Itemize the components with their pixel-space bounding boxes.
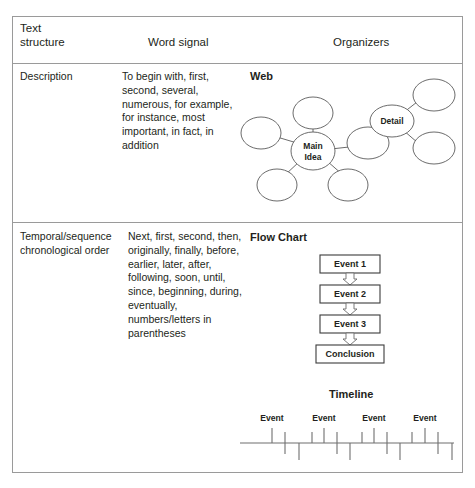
row-structure-temporal: Temporal/sequence chronological order: [20, 230, 132, 257]
flow-box-1-label: Event 1: [334, 259, 366, 269]
row-signals-temporal: Next, first, second, then, originally, f…: [128, 230, 244, 340]
web-node-blank-bottom-right: [328, 169, 368, 201]
row-signals-description: To begin with, first, second, several, n…: [122, 70, 240, 153]
web-node-detail-label: Detail: [380, 116, 403, 126]
table-row-separator-2: [12, 222, 463, 223]
flow-box-conclusion-label: Conclusion: [326, 349, 375, 359]
column-header-text-structure: Text structure: [20, 21, 65, 49]
web-node-blank-top: [293, 97, 333, 129]
organizer-title-timeline: Timeline: [329, 388, 373, 400]
flow-arrow-1-icon: [343, 273, 357, 285]
timeline-event-label-3: Event: [362, 413, 386, 423]
table-row-separator-1: [12, 63, 463, 64]
web-node-main-idea-label-line1: Main: [303, 141, 322, 151]
web-node-blank-bottom-left: [257, 169, 297, 201]
timeline-event-label-4: Event: [413, 413, 437, 423]
flow-arrow-2-icon: [343, 303, 357, 315]
timeline-event-label-2: Event: [312, 413, 336, 423]
flow-box-3-label: Event 3: [334, 319, 366, 329]
flow-chart-diagram: Event 1 Event 2 Event 3 Conclusion: [300, 252, 430, 370]
web-node-blank-far-lower: [413, 132, 455, 164]
row-structure-description: Description: [20, 70, 130, 84]
web-node-blank-far-upper: [413, 79, 455, 111]
web-node-blank-left: [241, 117, 281, 149]
flow-arrow-3-icon: [343, 333, 357, 345]
column-header-word-signal: Word signal: [148, 35, 209, 49]
web-organizer-diagram: Detail Main Idea: [245, 85, 470, 205]
timeline-diagram: Event Event Event Event: [240, 412, 460, 467]
column-header-organizers: Organizers: [333, 35, 389, 49]
flow-box-2-label: Event 2: [334, 289, 366, 299]
page-root: Text structure Word signal Organizers De…: [0, 0, 475, 488]
organizer-title-flow-chart: Flow Chart: [250, 231, 307, 243]
timeline-event-label-1: Event: [260, 413, 284, 423]
organizer-title-web: Web: [250, 70, 273, 82]
web-node-main-idea-label-line2: Idea: [304, 152, 321, 162]
web-node-main-idea: [291, 132, 335, 170]
